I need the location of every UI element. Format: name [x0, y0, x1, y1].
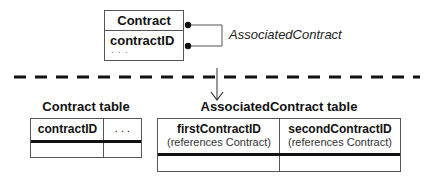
- entity-title: Contract: [105, 13, 183, 28]
- column-header: secondContractID: [280, 122, 400, 136]
- contract-entity: Contract contractID . . .: [104, 10, 184, 61]
- table-title: AssociatedContract table: [157, 99, 401, 114]
- column-note: (references Contract): [158, 136, 280, 148]
- relationship-end-dot-icon: [185, 22, 191, 28]
- entity-attribute-ellipsis: . . .: [111, 45, 129, 55]
- associated-contract-table: firstContractID (references Contract) se…: [157, 118, 401, 172]
- table-title: Contract table: [30, 99, 142, 114]
- contract-table: contractID . . .: [30, 118, 142, 158]
- column-header: contractID: [31, 122, 104, 136]
- column-note: (references Contract): [280, 136, 400, 148]
- relationship-end-dot-icon: [185, 43, 191, 49]
- relationship-label: AssociatedContract: [229, 27, 342, 42]
- column-header-ellipsis: . . .: [104, 122, 141, 134]
- column-header: firstContractID: [158, 122, 280, 136]
